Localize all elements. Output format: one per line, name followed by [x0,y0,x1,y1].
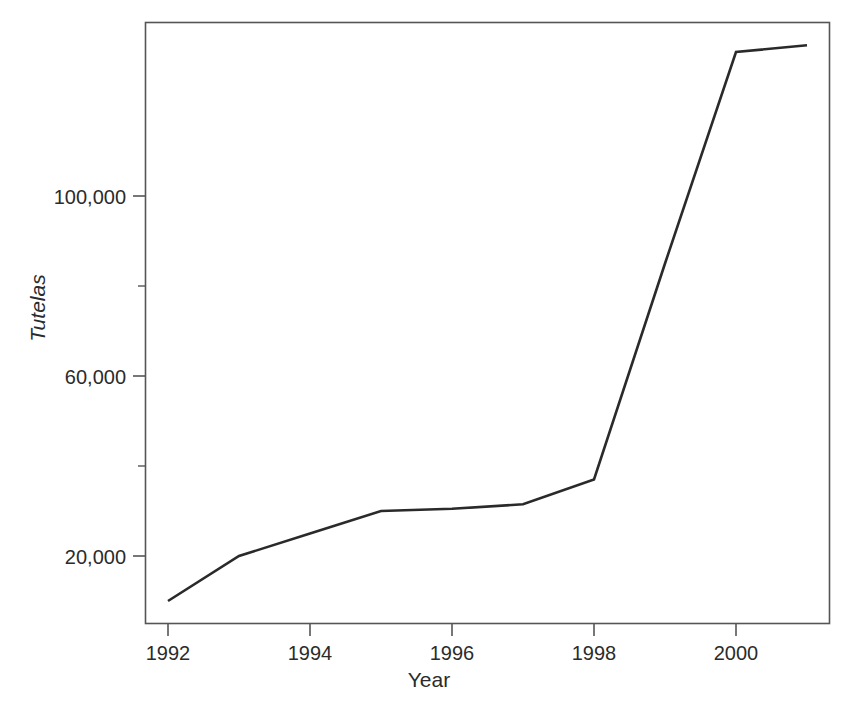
chart-figure: 100,000 60,000 20,000 1992 1994 1996 199… [0,0,858,718]
x-axis-title: Year [0,668,858,692]
x-tick-label-1998: 1998 [534,642,654,665]
x-tick-label-2000: 2000 [676,642,796,665]
line-chart-plot [0,0,858,718]
y-tick-label-20000: 20,000 [0,546,126,569]
x-tick-label-1992: 1992 [108,642,228,665]
x-tick-label-1996: 1996 [392,642,512,665]
y-axis-title: Tutelas [26,248,50,368]
y-tick-label-60000: 60,000 [0,366,126,389]
x-tick-label-1994: 1994 [250,642,370,665]
y-axis-major-ticks [133,196,145,556]
x-axis-ticks [168,624,736,636]
plot-frame [146,23,830,624]
y-tick-label-100000: 100,000 [0,186,126,209]
